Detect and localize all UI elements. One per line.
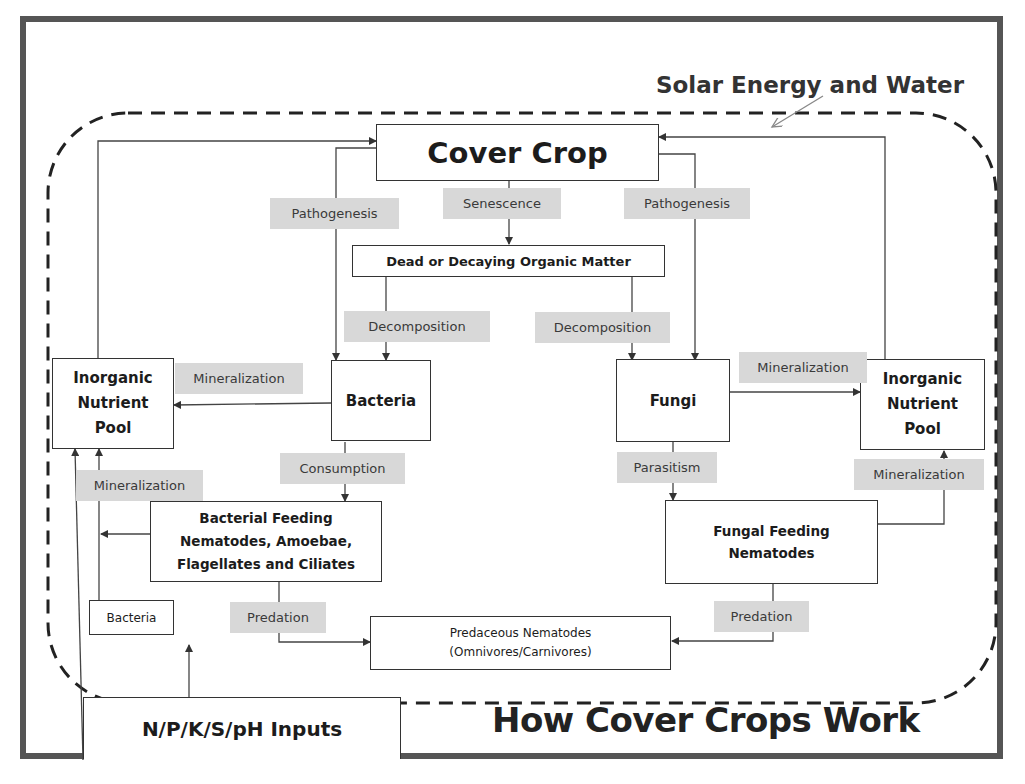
boundary-label: Solar Energy and Water xyxy=(656,72,964,98)
bacteria-small-label: Bacteria xyxy=(107,611,157,625)
predaceous-sublabel: (Omnivores/Carnivores) xyxy=(449,643,591,662)
edge-label-decomposition-left: Decomposition xyxy=(344,311,490,342)
edge-label-mineralization-left-low: Mineralization xyxy=(76,470,203,501)
node-dead-matter: Dead or Decaying Organic Matter xyxy=(352,245,665,277)
bacterial-feeders-line-3: Flagellates and Ciliates xyxy=(177,553,355,576)
edge-label-mineralization-right-low: Mineralization xyxy=(854,459,984,490)
pool-left-line-1: Inorganic xyxy=(73,366,153,391)
node-predaceous: Predaceous Nematodes (Omnivores/Carnivor… xyxy=(370,616,671,670)
node-pool-right: Inorganic Nutrient Pool xyxy=(860,359,985,450)
bacterial-feeders-line-2: Nematodes, Amoebae, xyxy=(180,530,352,553)
node-fungi: Fungi xyxy=(616,359,730,442)
node-bacterial-feeders: Bacterial Feeding Nematodes, Amoebae, Fl… xyxy=(150,501,382,582)
inputs-label: N/P/K/S/pH Inputs xyxy=(142,717,342,741)
edge-label-consumption: Consumption xyxy=(280,453,405,484)
pool-left-line-2: Nutrient xyxy=(78,391,149,416)
pool-right-line-2: Nutrient xyxy=(887,392,958,417)
pool-left-line-3: Pool xyxy=(95,416,132,441)
bacterial-feeders-line-1: Bacterial Feeding xyxy=(199,507,332,530)
edge-label-senescence: Senescence xyxy=(443,188,561,219)
node-dead-matter-label: Dead or Decaying Organic Matter xyxy=(386,254,631,269)
node-bacteria: Bacteria xyxy=(331,360,431,441)
node-pool-left: Inorganic Nutrient Pool xyxy=(52,358,174,449)
pool-right-line-1: Inorganic xyxy=(883,367,963,392)
node-bacteria-small: Bacteria xyxy=(89,600,174,635)
node-inputs: N/P/K/S/pH Inputs xyxy=(83,697,401,759)
edge-label-mineralization-bacteria: Mineralization xyxy=(175,363,303,394)
edge-label-decomposition-right: Decomposition xyxy=(535,312,670,343)
node-bacteria-label: Bacteria xyxy=(346,392,416,410)
predaceous-label: Predaceous Nematodes xyxy=(450,624,592,643)
diagram-title: How Cover Crops Work xyxy=(492,700,920,740)
fungal-feeders-line-2: Nematodes xyxy=(728,542,814,564)
edge-label-predation-right: Predation xyxy=(714,601,809,632)
node-cover-crop-label: Cover Crop xyxy=(427,136,607,170)
edge-label-mineralization-fungi: Mineralization xyxy=(739,352,867,383)
node-cover-crop: Cover Crop xyxy=(376,124,659,181)
fungal-feeders-line-1: Fungal Feeding xyxy=(713,520,829,542)
edge-label-pathogenesis-left: Pathogenesis xyxy=(270,198,399,229)
pool-right-line-3: Pool xyxy=(904,417,941,442)
node-fungal-feeders: Fungal Feeding Nematodes xyxy=(665,500,878,584)
edge-label-pathogenesis-right: Pathogenesis xyxy=(624,188,750,219)
node-fungi-label: Fungi xyxy=(650,392,697,410)
edge-label-parasitism: Parasitism xyxy=(617,452,717,483)
edge-label-predation-left: Predation xyxy=(230,602,326,633)
